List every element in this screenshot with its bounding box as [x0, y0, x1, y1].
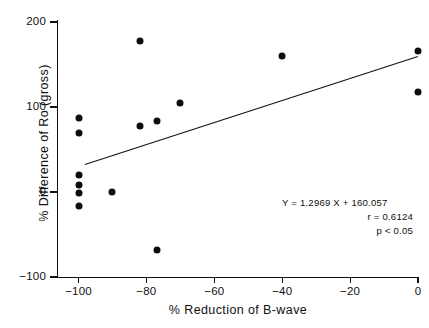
- data-point: [109, 189, 116, 196]
- y-tick-label: −100: [2, 270, 46, 282]
- x-tick-mark: [282, 277, 283, 283]
- x-tick-label: −80: [123, 285, 169, 297]
- regression-line: [85, 56, 418, 165]
- y-axis-line: [57, 20, 58, 278]
- y-tick-label: 100: [2, 100, 46, 112]
- data-point: [136, 37, 143, 44]
- data-point: [177, 99, 184, 106]
- y-tick-label: 200: [2, 15, 46, 27]
- data-point: [75, 182, 82, 189]
- data-point: [75, 189, 82, 196]
- data-point: [75, 129, 82, 136]
- data-point: [153, 246, 160, 253]
- y-tick-mark: [50, 276, 57, 277]
- data-point: [153, 117, 160, 124]
- x-tick-mark: [417, 277, 418, 283]
- y-tick-mark: [50, 21, 57, 22]
- x-tick-label: −60: [191, 285, 237, 297]
- x-tick-mark: [350, 277, 351, 283]
- data-point: [279, 53, 286, 60]
- y-tick-mark: [50, 191, 57, 192]
- y-axis-title: % Difference of Ro (gross): [37, 33, 51, 253]
- data-point: [75, 202, 82, 209]
- scatter-plot-figure: % Difference of Ro (gross) % Reduction o…: [0, 0, 429, 328]
- x-axis-line: [57, 277, 419, 278]
- x-tick-label: 0: [395, 285, 429, 297]
- data-point: [415, 88, 422, 95]
- x-axis-title: % Reduction of B-wave: [57, 303, 419, 317]
- data-point: [75, 172, 82, 179]
- y-tick-mark: [50, 106, 57, 107]
- x-tick-mark: [214, 277, 215, 283]
- y-tick-label: 0: [2, 185, 46, 197]
- x-tick-mark: [146, 277, 147, 283]
- x-tick-label: −100: [56, 285, 102, 297]
- data-point: [75, 115, 82, 122]
- data-point: [136, 122, 143, 129]
- regression-equation: Y = 1.2969 X + 160.057: [282, 196, 388, 211]
- correlation-value: r = 0.6124: [282, 210, 413, 225]
- p-value: p < 0.05: [282, 224, 413, 239]
- x-tick-label: −20: [327, 285, 373, 297]
- data-point: [415, 47, 422, 54]
- x-tick-label: −40: [259, 285, 305, 297]
- x-tick-mark: [78, 277, 79, 283]
